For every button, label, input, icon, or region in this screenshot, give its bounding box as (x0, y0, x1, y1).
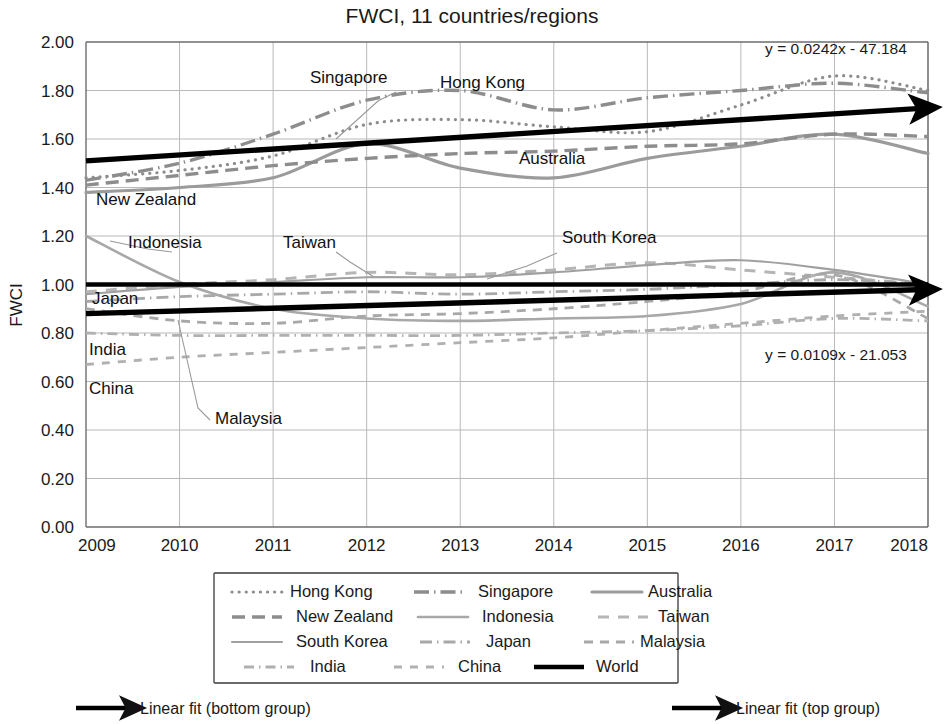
x-tick-label: 2018 (890, 536, 928, 555)
legend-label: World (596, 657, 639, 675)
legend-label: Malaysia (640, 632, 706, 650)
annotation-japan: Japan (92, 289, 138, 308)
x-tick-label: 2010 (161, 536, 199, 555)
x-tick-label: 2016 (722, 536, 760, 555)
y-tick-label: 1.20 (41, 227, 74, 246)
x-tick-label: 2009 (78, 536, 116, 555)
legend-label: Taiwan (658, 607, 709, 625)
y-axis-label: FWCI (7, 283, 26, 326)
legend-label: Australia (648, 582, 713, 600)
chart-title: FWCI, 11 countries/regions (346, 4, 599, 27)
y-tick-label: 0.40 (41, 421, 74, 440)
y-tick-label: 2.00 (41, 33, 74, 52)
legend-label: China (458, 657, 502, 675)
y-tick-label: 0.60 (41, 373, 74, 392)
legend-label: South Korea (296, 632, 389, 650)
y-tick-label: 1.00 (41, 276, 74, 295)
annotation-new-zealand: New Zealand (96, 190, 196, 209)
legend-label: Hong Kong (290, 582, 373, 600)
top-fit-label: Linear fit (top group) (736, 700, 880, 717)
x-tick-label: 2015 (628, 536, 666, 555)
x-tick-label: 2013 (441, 536, 479, 555)
fwci-line-chart: FWCI, 11 countries/regions FWCI 0.000.20… (0, 0, 944, 724)
annotation-china: China (89, 379, 134, 398)
annotation-indonesia: Indonesia (128, 233, 202, 252)
legend-label: Japan (486, 632, 531, 650)
x-tick-label: 2012 (348, 536, 386, 555)
annotation-south-korea: South Korea (562, 228, 657, 247)
annotation-taiwan: Taiwan (283, 233, 336, 252)
bottom-trend-equation: y = 0.0109x - 21.053 (765, 346, 907, 363)
legend-label: Singapore (478, 582, 553, 600)
y-tick-label: 0.20 (41, 470, 74, 489)
x-tick-label: 2011 (255, 536, 292, 555)
y-tick-label: 1.40 (41, 179, 74, 198)
legend-label: New Zealand (296, 607, 393, 625)
legend-label: India (310, 657, 347, 675)
y-tick-label: 0.00 (41, 518, 74, 537)
annotation-malaysia: Malaysia (215, 409, 283, 428)
annotation-australia: Australia (519, 149, 586, 168)
legend-label: Indonesia (482, 607, 554, 625)
y-tick-label: 0.80 (41, 324, 74, 343)
annotation-singapore: Singapore (310, 68, 388, 87)
x-tick-label: 2014 (535, 536, 573, 555)
annotation-india: India (89, 340, 126, 359)
bottom-fit-label: Linear fit (bottom group) (140, 700, 311, 717)
x-tick-label: 2017 (816, 536, 854, 555)
y-tick-label: 1.80 (41, 82, 74, 101)
top-trend-equation: y = 0.0242x - 47.184 (765, 40, 907, 57)
y-tick-label: 1.60 (41, 130, 74, 149)
annotation-hong-kong: Hong Kong (440, 73, 525, 92)
chart-container: FWCI, 11 countries/regions FWCI 0.000.20… (0, 0, 944, 724)
